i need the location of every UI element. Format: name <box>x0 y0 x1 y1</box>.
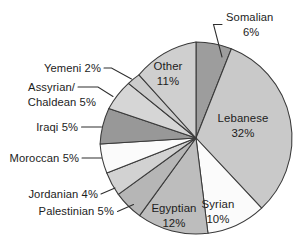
pie-label-assyrian-chaldean-line2: Chaldean 5% <box>28 96 96 108</box>
pie-chart: Somalian 6% Yemeni 2% Assyrian/ Chaldean… <box>0 0 308 247</box>
pie-label-lebanese-name: Lebanese <box>218 112 269 124</box>
pie-label-syrian-name: Syrian <box>202 198 235 210</box>
pie-label-lebanese-value: 32% <box>231 127 254 139</box>
leader-line-yemeni <box>104 68 132 79</box>
pie-label-egyptian-value: 12% <box>162 217 185 229</box>
pie-label-other-name: Other <box>154 60 183 72</box>
pie-label-egyptian-name: Egyptian <box>151 202 196 214</box>
pie-label-somalian-name: Somalian <box>226 11 273 23</box>
pie-label-other-value: 11% <box>157 75 179 87</box>
pie-label-somalian-value: 6% <box>243 26 259 38</box>
pie-label-assyrian-chaldean-line1: Assyrian/ <box>28 81 76 93</box>
leader-line-jordanian <box>101 188 115 194</box>
pie-label-yemeni: Yemeni 2% <box>44 62 101 74</box>
pie-label-jordanian: Jordanian 4% <box>28 188 98 200</box>
pie-chart-canvas: Somalian 6% Yemeni 2% Assyrian/ Chaldean… <box>0 0 308 247</box>
pie-label-syrian-value: 10% <box>206 213 229 225</box>
pie-label-iraqi: Iraqi 5% <box>36 121 78 133</box>
pie-label-palestinian: Palestinian 5% <box>39 205 114 217</box>
pie-label-moroccan: Moroccan 5% <box>10 152 80 164</box>
